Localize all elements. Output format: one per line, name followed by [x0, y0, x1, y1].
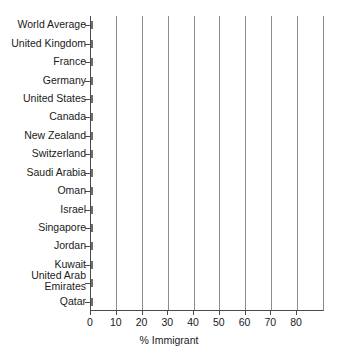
category-label-8: Saudi Arabia — [26, 167, 86, 178]
x-tick-mark-80 — [296, 311, 297, 315]
bar-row — [91, 169, 162, 177]
bar-new-zealand — [91, 132, 93, 140]
x-tick-mark-0 — [90, 311, 91, 315]
bar-switzerland — [91, 150, 93, 158]
bar-united-arab-emirates — [91, 279, 93, 287]
x-tick-mark-70 — [270, 311, 271, 315]
bar-saudi-arabia — [91, 169, 93, 177]
bar-row — [91, 206, 194, 214]
category-label-11: Singapore — [38, 222, 86, 233]
bar-israel — [91, 206, 93, 214]
bar-oman — [91, 187, 93, 195]
bar-united-kingdom — [91, 40, 93, 48]
bar-row — [91, 261, 269, 269]
category-label-0: World Average — [18, 19, 87, 30]
bar-row — [91, 58, 119, 66]
bar-row — [91, 113, 145, 121]
category-label-9: Oman — [57, 185, 86, 196]
category-label-6: New Zealand — [24, 130, 86, 141]
bar-jordan — [91, 242, 93, 250]
gridline-80 — [297, 16, 298, 310]
x-tick-mark-40 — [193, 311, 194, 315]
bar-row — [91, 187, 164, 195]
bar-canada — [91, 113, 93, 121]
plot-area — [90, 16, 324, 311]
bar-row — [91, 242, 208, 250]
category-label-3: Germany — [43, 75, 86, 86]
bar-row — [91, 150, 152, 158]
category-label-15: Qatar — [60, 296, 86, 307]
category-label-14: United ArabEmirates — [31, 270, 86, 291]
bar-kuwait — [91, 261, 93, 269]
bar-row — [91, 77, 124, 85]
x-tick-mark-50 — [219, 311, 220, 315]
category-label-13: Kuwait — [54, 259, 86, 270]
bar-row — [91, 95, 127, 103]
bar-row — [91, 298, 314, 306]
bar-row — [91, 21, 100, 29]
category-label-4: United States — [23, 93, 86, 104]
bar-united-states — [91, 95, 93, 103]
x-tick-mark-10 — [116, 311, 117, 315]
bar-row — [91, 40, 118, 48]
bar-qatar — [91, 298, 93, 306]
bar-row — [91, 224, 195, 232]
bar-row — [91, 132, 148, 140]
x-axis-title: % Immigrant — [0, 334, 338, 346]
category-label-2: France — [53, 56, 86, 67]
category-label-7: Switzerland — [32, 148, 86, 159]
bar-singapore — [91, 224, 93, 232]
bar-germany — [91, 77, 93, 85]
bar-france — [91, 58, 93, 66]
x-tick-mark-20 — [142, 311, 143, 315]
x-tick-label-80: 80 — [281, 316, 311, 328]
bar-world-average — [91, 21, 93, 29]
category-label-1: United Kingdom — [11, 38, 86, 49]
category-label-12: Jordan — [54, 240, 86, 251]
gridline-70 — [271, 16, 272, 310]
category-label-5: Canada — [49, 111, 86, 122]
x-tick-mark-30 — [167, 311, 168, 315]
category-label-10: Israel — [60, 204, 86, 215]
bar-row — [91, 279, 271, 287]
x-tick-mark-60 — [245, 311, 246, 315]
immigrant-percentage-bar-chart: % Immigrant World AverageUnited KingdomF… — [0, 0, 338, 362]
